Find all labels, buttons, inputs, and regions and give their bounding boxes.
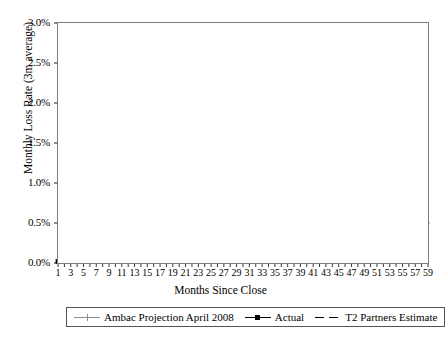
y-axis-tick-label: 2.0% — [10, 97, 50, 108]
y-axis-tick-label: 1.0% — [10, 177, 50, 188]
y-axis-tick-label: 0.5% — [10, 217, 50, 228]
legend-marker-square-line — [245, 313, 271, 322]
y-axis-tick-label: 3.0% — [10, 17, 50, 28]
legend-label: T2 Partners Estimate — [345, 311, 437, 323]
x-axis-title: Months Since Close — [0, 284, 441, 296]
x-axis-tick-label: 59 — [420, 268, 436, 278]
legend-marker-dashed-line — [315, 313, 341, 322]
plot-area — [57, 22, 429, 264]
y-axis-tick-label: 0.0% — [10, 257, 50, 268]
legend-marker-cross-line — [74, 313, 100, 322]
y-axis-tick-label: 1.5% — [10, 137, 50, 148]
legend-item-ambac-projection: Ambac Projection April 2008 — [74, 311, 234, 323]
y-axis-tick-label: 2.5% — [10, 57, 50, 68]
chart-legend: Ambac Projection April 2008 Actual T2 Pa… — [66, 307, 445, 327]
legend-item-actual: Actual — [245, 311, 304, 323]
legend-label: Actual — [275, 311, 304, 323]
legend-label: Ambac Projection April 2008 — [104, 311, 234, 323]
legend-item-t2-partners-estimate: T2 Partners Estimate — [315, 311, 437, 323]
